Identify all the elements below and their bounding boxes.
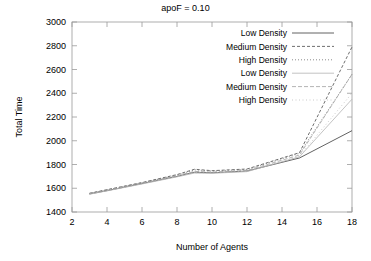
series-line (90, 93, 353, 194)
x-tick-label: 8 (174, 217, 179, 227)
chart-legend: Low DensityMedium DensityHigh DensityLow… (226, 28, 334, 105)
legend-label: High Density (239, 95, 288, 105)
y-tick-label: 2400 (46, 88, 66, 98)
y-axis-title: Total Time (14, 96, 24, 137)
legend-label: High Density (239, 55, 288, 65)
x-tick-labels: 24681012141618 (69, 217, 357, 227)
y-tick-label: 3000 (46, 17, 66, 27)
y-tick-label: 1800 (46, 160, 66, 170)
y-tick-labels: 140016001800200022002400260028003000 (46, 17, 66, 217)
x-axis-title: Number of Agents (176, 242, 249, 252)
y-tick-label: 2200 (46, 112, 66, 122)
y-tick-label: 2800 (46, 41, 66, 51)
legend-label: Low Density (241, 68, 288, 78)
legend-label: Medium Density (226, 42, 288, 52)
x-tick-label: 18 (347, 217, 357, 227)
x-tick-label: 12 (242, 217, 252, 227)
x-tick-label: 2 (69, 217, 74, 227)
series-line (90, 74, 353, 193)
y-tick-label: 2000 (46, 136, 66, 146)
legend-label: Low Density (241, 28, 288, 38)
y-tick-label: 2600 (46, 65, 66, 75)
x-tick-label: 16 (312, 217, 322, 227)
legend-label: Medium Density (226, 82, 288, 92)
plot-frame (72, 22, 352, 212)
chart-figure: apoF = 0.10 1400160018002000220024002600… (0, 0, 371, 261)
x-tick-label: 6 (139, 217, 144, 227)
plot-canvas: 140016001800200022002400260028003000 246… (0, 0, 371, 261)
x-tick-label: 4 (104, 217, 109, 227)
axis-ticks (72, 22, 352, 212)
x-tick-label: 10 (207, 217, 217, 227)
series-line (90, 74, 353, 193)
x-tick-label: 14 (277, 217, 287, 227)
y-tick-label: 1400 (46, 207, 66, 217)
data-series (90, 47, 353, 194)
y-tick-label: 1600 (46, 183, 66, 193)
series-line (90, 99, 353, 194)
